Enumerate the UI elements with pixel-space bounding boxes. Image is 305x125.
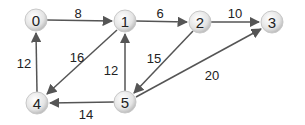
edge-label-4-0: 12 [17,56,31,71]
node-label-3: 3 [268,14,276,31]
edge-label-5-1: 12 [104,63,118,78]
node-1: 1 [114,10,136,32]
node-label-4: 4 [33,95,41,112]
node-2: 2 [189,11,211,33]
edge-4-0 [36,33,37,92]
node-4: 4 [26,92,48,114]
edge-label-1-4: 16 [70,50,84,65]
edge-label-0-1: 8 [74,6,81,21]
edge-label-5-4: 14 [79,107,93,122]
edge-label-2-3: 10 [228,6,242,21]
edge-label-5-3: 20 [205,68,219,83]
edge-5-4 [50,102,114,103]
node-label-1: 1 [121,13,129,30]
node-label-5: 5 [121,94,129,111]
edge-2-5 [134,31,193,93]
edge-label-1-2: 6 [156,6,163,21]
node-label-2: 2 [196,14,204,31]
edge-1-2 [136,21,187,22]
node-5: 5 [114,91,136,113]
node-0: 0 [25,9,47,31]
node-3: 3 [261,11,283,33]
edge-label-2-5: 15 [147,51,161,66]
node-label-0: 0 [32,12,40,29]
graph-diagram: 8 6 10 16 12 12 15 20 14 0 1 2 3 4 [0,0,305,125]
